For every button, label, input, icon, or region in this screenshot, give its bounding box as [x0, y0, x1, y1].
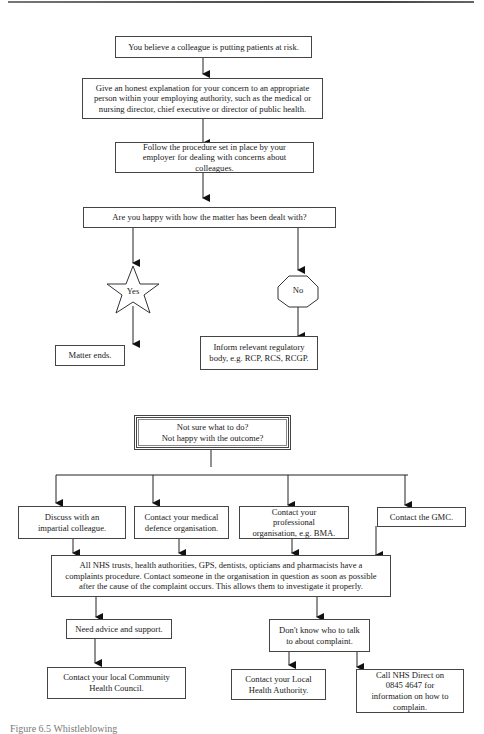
- option-professional-org-box: Contact your professional organisation, …: [239, 506, 349, 539]
- community-health-council-box: Contact your local Community Health Coun…: [47, 667, 186, 699]
- option-gmc-box: Contact the GMC.: [377, 507, 466, 527]
- not-happy-line: Not happy with the outcome?: [162, 433, 264, 444]
- follow-procedure-box: Follow the procedure set in place by you…: [115, 142, 314, 173]
- no-label: No: [286, 285, 310, 295]
- honest-explanation-box: Give an honest explanation for your conc…: [82, 78, 323, 119]
- figure-caption: Figure 6.5 Whistleblowing: [10, 723, 117, 734]
- dont-know-box: Don't know who to talk to about complain…: [269, 619, 370, 652]
- start-concern-box: You believe a colleague is putting patie…: [115, 36, 312, 58]
- not-sure-header-box: Not sure what to do? Not happy with the …: [134, 415, 291, 450]
- option-medical-defence-box: Contact your medical defence organisatio…: [134, 506, 229, 539]
- matter-ends-box: Matter ends.: [55, 345, 125, 366]
- local-health-authority-box: Contact your Local Health Authority.: [231, 669, 326, 700]
- yes-label: Yes: [121, 286, 145, 296]
- not-sure-line: Not sure what to do?: [177, 422, 249, 433]
- need-advice-box: Need advice and support.: [66, 619, 172, 639]
- complaints-procedure-box: All NHS trusts, health authorities, GPS,…: [51, 555, 391, 597]
- happy-question-box: Are you happy with how the matter has be…: [83, 207, 336, 228]
- nhs-direct-box: Call NHS Direct on 0845 4647 for informa…: [356, 669, 464, 713]
- option-impartial-colleague-box: Discuss with an impartial colleague.: [18, 506, 126, 539]
- inform-regulatory-box: Inform relevant regulatory body, e.g. RC…: [200, 336, 318, 370]
